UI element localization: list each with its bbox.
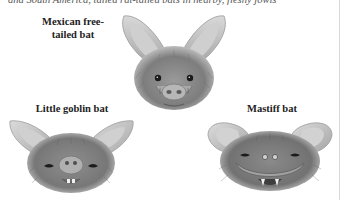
clipped-body-text: and South America, tailed rat-tailed bat… [8,0,328,6]
bat-face-icon [4,117,139,199]
mastiff-bat-illustration [200,117,340,201]
bat-face-icon [200,117,340,201]
figure-label-mexican-free-tailed-bat: Mexican free- tailed bat [28,15,118,41]
little-goblin-bat-illustration [4,117,139,199]
mexican-free-tailed-bat-illustration [110,12,238,116]
bat-face-icon [110,12,238,116]
figure-label-little-goblin-bat: Little goblin bat [22,102,122,115]
label-line-1: Mexican free- [28,15,118,28]
figure-label-mastiff-bat: Mastiff bat [222,102,322,115]
book-page: and South America, tailed rat-tailed bat… [0,0,347,217]
label-line-2: tailed bat [28,28,118,41]
